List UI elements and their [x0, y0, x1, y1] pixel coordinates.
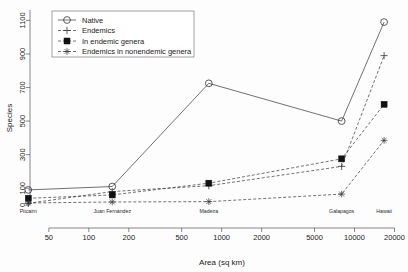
marker-filled-square [206, 180, 212, 186]
y-tick-label: 900 [18, 48, 27, 61]
marker-star [109, 199, 116, 206]
y-axis: 01003005007009001100 [18, 10, 30, 207]
island-label: Madeira [199, 208, 218, 214]
marker-plus [338, 163, 345, 170]
y-tick-label: 700 [18, 81, 27, 94]
x-axis: 501002005001000200050001000020000 [45, 228, 405, 242]
marker-star [64, 48, 71, 55]
marker-filled-square [339, 156, 345, 162]
island-label: Pitcairn [20, 208, 37, 214]
x-tick-label: 500 [175, 233, 188, 242]
x-tick-label: 10000 [344, 233, 365, 242]
island-label: Juan Fernández [93, 208, 131, 214]
x-tick-label: 2000 [253, 233, 270, 242]
series-line [28, 140, 384, 203]
species-area-chart: 01003005007009001100 5010020050010002000… [0, 0, 408, 272]
legend-label: Endemics [82, 26, 115, 35]
x-axis-title: Area (sq km) [199, 258, 245, 267]
marker-plus [380, 52, 387, 59]
marker-filled-square [64, 38, 70, 44]
marker-star [205, 198, 212, 205]
marker-star [25, 200, 32, 207]
y-tick-label: 1100 [18, 12, 27, 28]
chart-canvas: 01003005007009001100 5010020050010002000… [0, 0, 408, 272]
marker-filled-square [109, 192, 115, 198]
legend-label: Endemics in nonendemic genera [82, 47, 192, 56]
legend-label: In endemic genera [82, 37, 145, 46]
y-tick-label: 500 [18, 115, 27, 128]
y-tick-label: 300 [18, 148, 27, 161]
island-label: Galapagos [329, 208, 354, 214]
marker-star [381, 137, 388, 144]
series-in-endemic-genera [25, 101, 387, 201]
legend-label: Native [82, 16, 103, 25]
island-labels: PitcairnJuan FernándezMadeiraGalapagosHa… [20, 208, 392, 214]
x-tick-label: 100 [83, 233, 96, 242]
x-tick-label: 20000 [384, 233, 405, 242]
marker-star [338, 191, 345, 198]
x-tick-label: 5000 [306, 233, 323, 242]
x-tick-label: 200 [123, 233, 136, 242]
x-tick-label: 50 [45, 233, 53, 242]
island-label: Hawaii [376, 208, 392, 214]
marker-filled-square [381, 101, 387, 107]
chart-legend: NativeEndemicsIn endemic generaEndemics … [52, 11, 194, 57]
x-tick-label: 1000 [213, 233, 230, 242]
y-axis-title: Species [5, 104, 14, 132]
